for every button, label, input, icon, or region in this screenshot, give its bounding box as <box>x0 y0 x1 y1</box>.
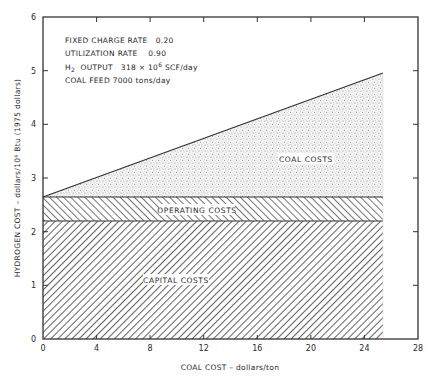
capital-costs-band <box>43 221 383 339</box>
h2-output: H2 OUTPUT 318 × 106 SCF/day <box>65 61 198 73</box>
y-tick-label: 6 <box>31 13 36 22</box>
x-tick-label: 12 <box>199 344 209 353</box>
fixed-charge-rate: FIXED CHARGE RATE 0.20 <box>65 36 174 45</box>
y-tick-label: 4 <box>31 120 36 129</box>
x-tick-label: 8 <box>148 344 153 353</box>
y-tick-label: 0 <box>31 335 36 344</box>
y-axis-title: HYDROGEN COST – dollars/10⁶ Btu (1975 do… <box>13 79 22 278</box>
y-tick-label: 1 <box>31 281 36 290</box>
x-tick-label: 20 <box>306 344 316 353</box>
operating-costs-label: OPERATING COSTS <box>157 206 236 215</box>
utilization-rate: UTILIZATION RATE 0.90 <box>65 49 166 58</box>
x-tick-label: 4 <box>94 344 99 353</box>
x-axis-title: COAL COST – dollars/ton <box>181 363 280 372</box>
coal-costs-label: COAL COSTS <box>279 155 333 164</box>
x-tick-label: 16 <box>252 344 262 353</box>
parameters-annotation: FIXED CHARGE RATE 0.20 UTILIZATION RATE … <box>65 36 198 85</box>
coal-feed: COAL FEED 7000 tons/day <box>65 76 171 85</box>
x-tick-label: 28 <box>413 344 423 353</box>
x-tick-label: 0 <box>40 344 45 353</box>
capital-costs-label: CAPITAL COSTS <box>143 276 209 285</box>
y-tick-label: 2 <box>31 228 36 237</box>
y-tick-label: 3 <box>31 174 36 183</box>
x-tick-label: 24 <box>359 344 369 353</box>
chart-canvas: 0 4 8 12 16 20 24 28 0 1 2 3 4 5 6 COAL … <box>0 0 437 383</box>
y-tick-label: 5 <box>31 67 36 76</box>
